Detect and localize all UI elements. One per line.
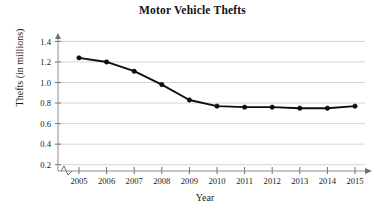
data-point-2012 xyxy=(270,105,274,109)
x-tick-label: 2011 xyxy=(236,176,253,186)
x-axis-ticks: 2005200620072008200920102011201220132014… xyxy=(70,167,363,186)
x-tick-label: 2013 xyxy=(291,176,308,186)
x-tick-label: 2014 xyxy=(319,176,337,186)
x-tick-label: 2008 xyxy=(153,176,170,186)
y-tick-label: 1.2 xyxy=(40,57,51,67)
data-series xyxy=(77,56,357,111)
y-tick-label: 0.4 xyxy=(40,139,51,149)
y-tick-label: 1.0 xyxy=(40,78,51,88)
x-tick-label: 2012 xyxy=(264,176,281,186)
y-tick-label: 0.8 xyxy=(40,98,51,108)
series-line xyxy=(79,58,355,108)
x-tick-label: 2005 xyxy=(70,176,87,186)
data-point-2015 xyxy=(353,104,357,108)
x-tick-label: 2015 xyxy=(346,176,363,186)
data-point-2011 xyxy=(242,105,246,109)
x-tick-label: 2009 xyxy=(181,176,198,186)
data-point-2006 xyxy=(104,60,108,64)
x-tick-label: 2007 xyxy=(126,176,144,186)
data-point-2005 xyxy=(77,56,81,60)
axes xyxy=(55,33,372,175)
x-tick-label: 2006 xyxy=(98,176,116,186)
x-axis-arrow-icon xyxy=(365,168,372,174)
data-point-2007 xyxy=(132,69,136,73)
data-point-2010 xyxy=(215,104,219,108)
y-tick-label: 0.6 xyxy=(40,119,51,129)
data-point-2008 xyxy=(160,82,164,86)
data-point-2014 xyxy=(325,106,329,110)
y-tick-label: 0.2 xyxy=(40,160,51,170)
plot-area: 0.20.40.60.81.01.21.4 200520062007200820… xyxy=(0,0,385,218)
x-tick-label: 2010 xyxy=(208,176,225,186)
data-point-2009 xyxy=(187,98,191,102)
chart-figure: Motor Vehicle Thefts Thefts (in millions… xyxy=(0,0,385,218)
y-axis-arrow-icon xyxy=(55,33,61,39)
y-tick-label: 1.4 xyxy=(40,37,51,47)
data-point-2013 xyxy=(298,106,302,110)
